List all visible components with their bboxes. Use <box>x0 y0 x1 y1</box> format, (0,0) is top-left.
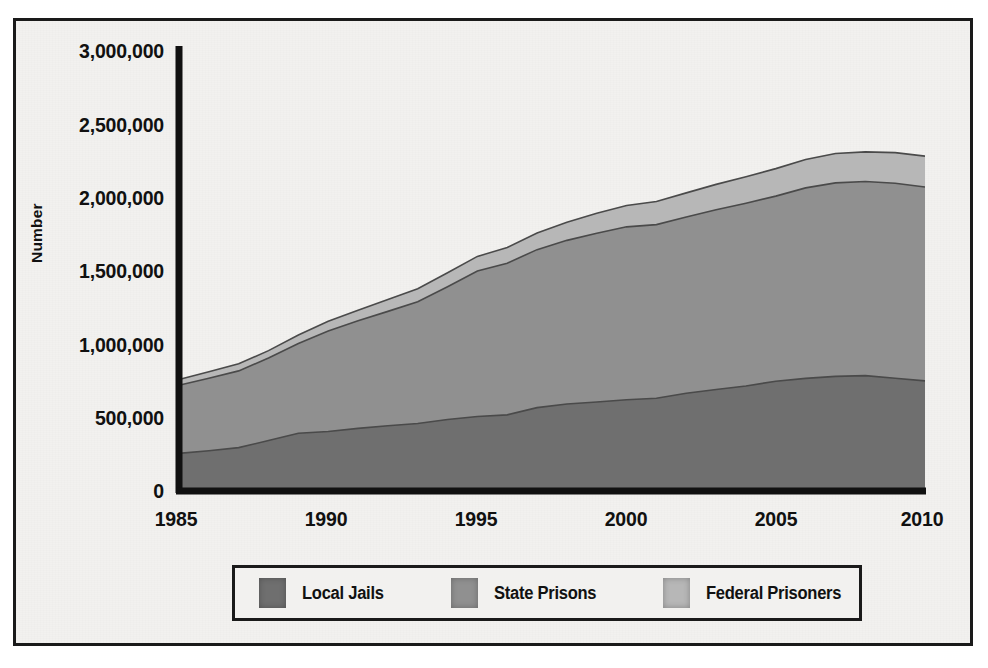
legend-item-federal-prisoners[interactable]: Federal Prisoners <box>663 578 853 608</box>
xtick-label-2010: 2010 <box>882 508 962 531</box>
legend-swatch-state-prisons <box>451 578 478 608</box>
y-axis-title: Number <box>28 143 46 263</box>
xtick-label-1990: 1990 <box>286 508 366 531</box>
ytick-label-500000: 500,000 <box>46 407 164 430</box>
ytick-label-0: 0 <box>46 480 164 503</box>
legend-swatch-local-jails <box>259 578 286 608</box>
xtick-label-1985: 1985 <box>136 508 216 531</box>
legend-label-federal-prisoners: Federal Prisoners <box>706 583 841 604</box>
ytick-label-1500000: 1,500,000 <box>46 260 164 283</box>
legend-swatch-federal-prisoners <box>663 578 690 608</box>
legend-item-state-prisons[interactable]: State Prisons <box>451 578 605 608</box>
ytick-label-3000000: 3,000,000 <box>46 40 164 63</box>
chart-legend: Local Jails State Prisons Federal Prison… <box>232 565 862 621</box>
ytick-label-1000000: 1,000,000 <box>46 334 164 357</box>
legend-label-local-jails: Local Jails <box>302 583 384 604</box>
xtick-label-1995: 1995 <box>436 508 516 531</box>
figure-root: 0 500,000 1,000,000 1,500,000 2,000,000 … <box>0 0 988 668</box>
ytick-label-2000000: 2,000,000 <box>46 187 164 210</box>
legend-item-local-jails[interactable]: Local Jails <box>259 578 391 608</box>
ytick-label-2500000: 2,500,000 <box>46 114 164 137</box>
legend-label-state-prisons: State Prisons <box>494 583 596 604</box>
xtick-label-2005: 2005 <box>736 508 816 531</box>
area-series-group <box>179 152 925 491</box>
xtick-label-2000: 2000 <box>586 508 666 531</box>
